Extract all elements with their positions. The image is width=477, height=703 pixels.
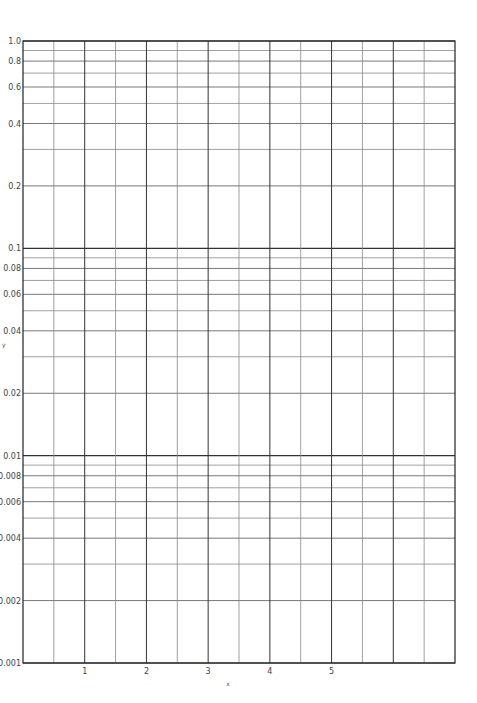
x-tick-label: 3	[206, 667, 211, 676]
x-tick-label: 1	[82, 667, 87, 676]
x-axis-label: x	[226, 680, 230, 687]
y-tick-label: 0.006	[0, 498, 21, 507]
x-axis-tick-labels: 12345	[82, 667, 334, 676]
y-tick-label: 0.08	[3, 264, 21, 273]
vertical-gridlines	[54, 41, 424, 663]
y-tick-label: 0.4	[8, 120, 21, 129]
y-tick-label: 0.2	[8, 182, 21, 191]
y-tick-label: 0.1	[8, 244, 21, 253]
y-tick-label: 0.06	[3, 290, 21, 299]
y-axis-tick-labels: 1.00.80.60.40.20.10.080.060.040.020.010.…	[0, 37, 21, 668]
y-tick-label: 0.002	[0, 597, 21, 606]
y-tick-label: 0.008	[0, 472, 21, 481]
y-axis-label: y	[2, 341, 6, 349]
y-tick-label: 0.004	[0, 534, 21, 543]
log-grid-chart: 1.00.80.60.40.20.10.080.060.040.020.010.…	[0, 0, 477, 703]
y-tick-label: 0.8	[8, 57, 21, 66]
x-tick-label: 5	[329, 667, 334, 676]
y-tick-label: 1.0	[8, 37, 21, 46]
y-tick-label: 0.001	[0, 659, 21, 668]
y-tick-label: 0.01	[3, 452, 21, 461]
x-tick-label: 4	[267, 667, 272, 676]
y-tick-label: 0.6	[8, 83, 21, 92]
y-tick-label: 0.04	[3, 327, 21, 336]
x-tick-label: 2	[144, 667, 149, 676]
y-tick-label: 0.02	[3, 389, 21, 398]
